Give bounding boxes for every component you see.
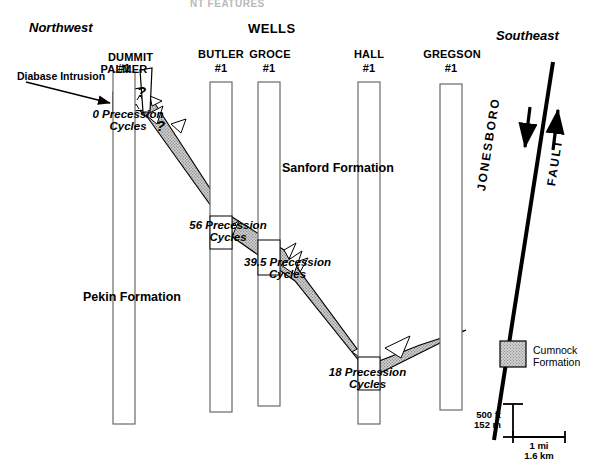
diabase-intrusion-label: Diabase Intrusion [17, 71, 105, 82]
cycle-label-18: 18 Precession Cycles [300, 366, 435, 390]
query-mark-upper: ? [137, 84, 146, 100]
well-name-groce[interactable]: GROCE [235, 49, 305, 61]
well-number-hall: #1 [349, 63, 389, 75]
formation-label-sanford: Sanford Formation [282, 162, 394, 176]
orientation-southeast: Southeast [496, 29, 559, 43]
wells-header: WELLS [248, 22, 296, 36]
figure-canvas: NT FEATURES Northwest WELLS Southeast DU… [0, 0, 599, 471]
top-title-partial: NT FEATURES [190, 0, 265, 10]
cumnock-swatch [500, 341, 526, 367]
cycle-label-0: 0 Precession Cycles [68, 108, 188, 132]
legend-label-cumnock: Cumnock Formation [533, 344, 580, 368]
jonesboro-fault-line [494, 62, 553, 440]
scale-horizontal-km: 1.6 km [512, 451, 566, 462]
well-number-butler: #1 [201, 63, 241, 75]
formation-label-pekin: Pekin Formation [83, 291, 181, 305]
cycle-label-56: 56 Precession Cycles [163, 219, 293, 243]
well-number-gregson: #1 [431, 63, 471, 75]
well-name-hall[interactable]: HALL [339, 49, 399, 61]
well-number-groce: #1 [249, 63, 289, 75]
orientation-northwest: Northwest [29, 21, 93, 35]
scale-bars [503, 404, 565, 443]
cycle-label-39-5: 39.5 Precession Cycles [215, 256, 360, 280]
scale-vertical-m: 152 m [453, 420, 501, 431]
well-number-dummit-palmer: #1 [104, 63, 144, 75]
well-name-gregson[interactable]: GREGSON [412, 49, 492, 61]
